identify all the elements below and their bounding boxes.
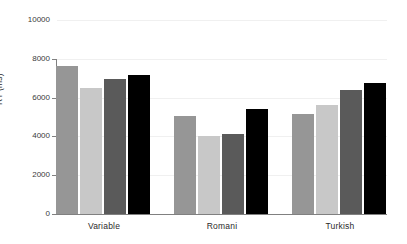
y-axis-title: RT (ms): [0, 73, 4, 105]
bar: [292, 114, 314, 214]
y-tick-label: 2000: [32, 171, 50, 179]
bar: [80, 88, 102, 214]
gridline: [57, 59, 387, 60]
bar-chart: RT (ms) 0200040006000800010000 VariableR…: [0, 0, 407, 244]
gridline: [57, 20, 387, 21]
y-tick-label: 0: [46, 210, 50, 218]
y-tick-label: 4000: [32, 132, 50, 140]
bar: [174, 116, 196, 214]
bar: [316, 105, 338, 214]
bar: [104, 79, 126, 214]
x-axis-group-label: Turkish: [292, 221, 388, 231]
y-tick-label: 8000: [32, 55, 50, 63]
bar: [246, 109, 268, 214]
bar: [198, 136, 220, 214]
y-tick-mark: [52, 214, 56, 215]
bar: [128, 75, 150, 214]
bar: [56, 66, 78, 214]
bar: [340, 90, 362, 214]
y-tick-mark: [52, 59, 56, 60]
y-tick-label: 10000: [28, 16, 50, 24]
bar: [222, 134, 244, 214]
y-tick-label: 6000: [32, 94, 50, 102]
bar: [364, 83, 386, 214]
x-axis-group-label: Romani: [174, 221, 270, 231]
x-axis-line: [57, 214, 387, 215]
x-axis-group-label: Variable: [56, 221, 152, 231]
